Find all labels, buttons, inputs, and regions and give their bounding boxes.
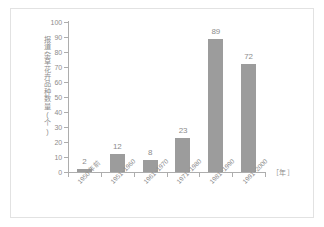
bar-value-label: 12	[102, 143, 132, 151]
y-axis-tick-label-text: 80	[38, 49, 62, 56]
x-axis-tick	[199, 173, 200, 177]
y-axis-tick-label: 20	[36, 139, 62, 147]
y-axis-tick-label-text: 10	[38, 154, 62, 161]
y-axis-tick-label: 0	[36, 169, 62, 177]
y-axis-tick-label-text: 50	[38, 94, 62, 101]
bar-value-label: 23	[168, 127, 198, 135]
y-axis-tick-label: 100	[36, 19, 62, 27]
chart-figure: 报道杂草花卉品种数量(个) 0102030405060708090100 212…	[0, 0, 324, 227]
x-axis-tick	[101, 173, 102, 177]
bar-value-label: 89	[201, 28, 231, 36]
y-axis-tick-label: 60	[36, 79, 62, 87]
y-axis-tick-label: 30	[36, 124, 62, 132]
x-axis-unit-label: ［年］	[272, 167, 294, 177]
plot-area	[68, 22, 265, 172]
bar-value-label: 72	[234, 53, 264, 61]
y-axis-tick-label-text: 100	[38, 19, 62, 26]
y-axis-tick-label-text: 20	[38, 139, 62, 146]
bar	[241, 64, 256, 172]
y-axis-tick-label: 40	[36, 109, 62, 117]
y-axis-tick-label-text: 70	[38, 64, 62, 71]
x-axis-tick	[167, 173, 168, 177]
y-axis-tick-label-text: 40	[38, 109, 62, 116]
x-axis-tick	[134, 173, 135, 177]
x-axis-tick	[265, 173, 266, 177]
y-axis-tick-label: 10	[36, 154, 62, 162]
y-axis-tick-label-text: 0	[38, 169, 62, 176]
bar	[208, 39, 223, 173]
y-axis-tick-label-text: 60	[38, 79, 62, 86]
y-axis-tick-label: 70	[36, 64, 62, 72]
x-axis-tick	[68, 173, 69, 177]
x-axis-tick	[232, 173, 233, 177]
y-axis-tick-label-text: 90	[38, 34, 62, 41]
y-axis-tick-label-text: 30	[38, 124, 62, 131]
y-axis-tick-label: 90	[36, 34, 62, 42]
bar-value-label: 8	[135, 149, 165, 157]
y-axis-tick-label: 50	[36, 94, 62, 102]
y-axis-tick-label: 80	[36, 49, 62, 57]
